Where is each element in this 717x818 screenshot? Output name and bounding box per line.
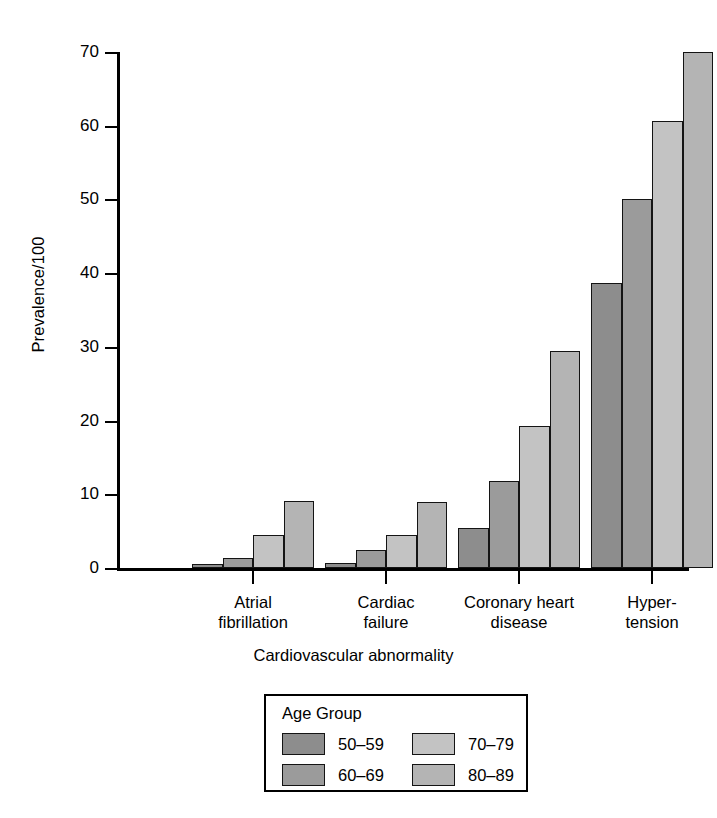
y-tick-mark (105, 347, 117, 349)
bar (253, 535, 284, 568)
x-tick-mark (651, 571, 653, 584)
legend-swatch (412, 764, 455, 786)
bar (284, 501, 315, 568)
bar (458, 528, 489, 568)
legend-label: 50–59 (338, 735, 384, 754)
legend-entry: 60–69 (282, 764, 384, 786)
y-tick-label: 20 (53, 412, 99, 429)
legend-label: 70–79 (468, 735, 514, 754)
plot-area: Prevalence/100 010203040506070 Atrial fi… (0, 0, 707, 600)
bar (417, 502, 448, 568)
y-tick-mark (105, 273, 117, 275)
y-tick-mark (105, 568, 117, 570)
x-axis-title: Cardiovascular abnormality (0, 646, 707, 665)
legend-swatch (412, 733, 455, 755)
legend-label: 80–89 (468, 766, 514, 785)
bar (325, 563, 356, 568)
y-axis-title: Prevalence/100 (29, 195, 48, 395)
bar (550, 351, 581, 568)
bar (386, 535, 417, 568)
y-tick-label: 0 (53, 559, 99, 576)
legend-title: Age Group (282, 704, 362, 723)
legend-entry: 70–79 (412, 733, 514, 755)
y-axis-line (117, 52, 120, 571)
y-tick-mark (105, 52, 117, 54)
legend-swatch (282, 764, 325, 786)
bar (622, 199, 653, 568)
bar (683, 52, 714, 568)
bar (192, 564, 223, 568)
x-tick-mark (518, 571, 520, 584)
y-tick-mark (105, 126, 117, 128)
y-tick-mark (105, 494, 117, 496)
bar (356, 550, 387, 568)
x-category-label: Hyper- tension (562, 592, 717, 632)
bar (519, 426, 550, 568)
y-tick-label: 30 (53, 338, 99, 355)
bar (591, 283, 622, 568)
x-axis-line (117, 568, 689, 571)
legend-entry: 80–89 (412, 764, 514, 786)
y-tick-label: 40 (53, 264, 99, 281)
bar (223, 558, 254, 568)
y-tick-label: 10 (53, 485, 99, 502)
legend-label: 60–69 (338, 766, 384, 785)
x-tick-mark (252, 571, 254, 584)
legend: Age Group 50–5970–7960–6980–89 (264, 694, 528, 792)
bar (652, 121, 683, 568)
y-tick-label: 60 (53, 117, 99, 134)
legend-entry: 50–59 (282, 733, 384, 755)
legend-swatch (282, 733, 325, 755)
y-tick-mark (105, 199, 117, 201)
y-tick-mark (105, 421, 117, 423)
y-tick-label: 70 (53, 43, 99, 60)
x-tick-mark (385, 571, 387, 584)
bar (489, 481, 520, 568)
y-tick-label: 50 (53, 190, 99, 207)
